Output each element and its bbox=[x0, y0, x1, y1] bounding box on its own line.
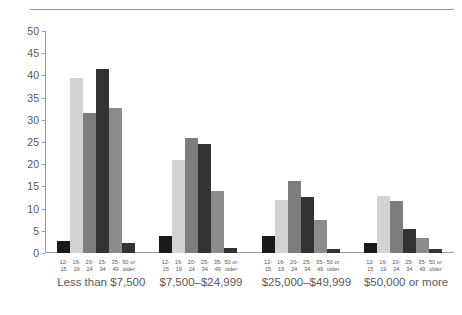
x-axis-tick-label: 35- 49 bbox=[211, 259, 224, 273]
plot-area: 05101520253035404550 12- 1516- 1920- 242… bbox=[45, 31, 454, 253]
x-axis-tick-label: 25- 34 bbox=[403, 259, 416, 273]
x-axis-tick-label: 20- 24 bbox=[83, 259, 96, 273]
x-axis-tick-label: 50 or older bbox=[429, 259, 442, 273]
x-axis-tick-label: 16- 19 bbox=[172, 259, 185, 273]
y-axis-tick-mark bbox=[42, 253, 45, 254]
bar bbox=[83, 113, 96, 253]
group-label: Less than $7,500 bbox=[57, 276, 135, 288]
bar bbox=[172, 160, 185, 253]
x-axis-tick-label: 12- 15 bbox=[364, 259, 377, 273]
x-axis-tick-label: 12- 15 bbox=[159, 259, 172, 273]
bar bbox=[301, 197, 314, 253]
y-axis-tick-label: 40 bbox=[27, 70, 39, 81]
y-axis-tick-mark bbox=[42, 186, 45, 187]
y-axis-tick-label: 20 bbox=[27, 159, 39, 170]
bars bbox=[262, 31, 340, 253]
bar bbox=[262, 236, 275, 253]
group-label: $7,500–$24,999 bbox=[159, 276, 237, 288]
group-label: $50,000 or more bbox=[364, 276, 442, 288]
x-axis-tick-label: 16- 19 bbox=[377, 259, 390, 273]
bar bbox=[377, 196, 390, 253]
bar bbox=[198, 144, 211, 253]
group-label: $25,000–$49,999 bbox=[262, 276, 340, 288]
y-axis-tick-label: 50 bbox=[27, 26, 39, 37]
y-axis-tick-label: 30 bbox=[27, 115, 39, 126]
bar bbox=[70, 78, 83, 253]
x-axis-tick-label: 50 or older bbox=[122, 259, 135, 273]
bar bbox=[390, 201, 403, 253]
y-axis-tick-mark bbox=[42, 164, 45, 165]
x-axis-tick-label: 25- 34 bbox=[198, 259, 211, 273]
x-axis-tick-label: 50 or older bbox=[224, 259, 237, 273]
bars bbox=[159, 31, 237, 253]
x-axis-tick-label: 35- 49 bbox=[416, 259, 429, 273]
bar-group: 12- 1516- 1920- 2425- 3435- 4950 or olde… bbox=[262, 31, 340, 253]
x-axis-tick-label: 20- 24 bbox=[185, 259, 198, 273]
x-axis-tick-label: 16- 19 bbox=[275, 259, 288, 273]
bar-group: 12- 1516- 1920- 2425- 3435- 4950 or olde… bbox=[159, 31, 237, 253]
y-axis-tick-mark bbox=[42, 98, 45, 99]
y-axis-tick-mark bbox=[42, 209, 45, 210]
x-axis-tick-labels: 12- 1516- 1920- 2425- 3435- 4950 or olde… bbox=[159, 253, 237, 273]
y-axis-tick-label: 35 bbox=[27, 92, 39, 103]
bar bbox=[275, 200, 288, 253]
y-axis-tick-mark bbox=[42, 120, 45, 121]
x-axis-tick-label: 50 or older bbox=[327, 259, 340, 273]
bars bbox=[57, 31, 135, 253]
x-axis-tick-labels: 12- 1516- 1920- 2425- 3435- 4950 or olde… bbox=[364, 253, 442, 273]
bar-group: 12- 1516- 1920- 2425- 3435- 4950 or olde… bbox=[57, 31, 135, 253]
x-axis-tick-label: 35- 49 bbox=[314, 259, 327, 273]
bar-group: 12- 1516- 1920- 2425- 3435- 4950 or olde… bbox=[364, 31, 442, 253]
bars bbox=[364, 31, 442, 253]
bar bbox=[109, 108, 122, 253]
y-axis-tick-mark bbox=[42, 231, 45, 232]
bar bbox=[122, 243, 135, 253]
y-axis-tick-label: 25 bbox=[27, 137, 39, 148]
x-axis-tick-label: 20- 24 bbox=[288, 259, 301, 273]
x-axis-tick-labels: 12- 1516- 1920- 2425- 3435- 4950 or olde… bbox=[57, 253, 135, 273]
bar bbox=[416, 238, 429, 253]
x-axis-tick-label: 12- 15 bbox=[262, 259, 275, 273]
x-axis-tick-label: 20- 24 bbox=[390, 259, 403, 273]
y-axis-tick-label: 0 bbox=[33, 248, 39, 259]
y-axis-tick-label: 15 bbox=[27, 181, 39, 192]
x-axis-tick-labels: 12- 1516- 1920- 2425- 3435- 4950 or olde… bbox=[262, 253, 340, 273]
x-axis-tick-label: 25- 34 bbox=[301, 259, 314, 273]
chart-figure: 05101520253035404550 12- 1516- 1920- 242… bbox=[0, 0, 462, 315]
x-axis-tick-label: 12- 15 bbox=[57, 259, 70, 273]
bar bbox=[364, 243, 377, 253]
bar bbox=[403, 229, 416, 253]
bar bbox=[314, 220, 327, 253]
bar bbox=[57, 241, 70, 253]
y-axis-tick-mark bbox=[42, 31, 45, 32]
x-axis-tick-label: 35- 49 bbox=[109, 259, 122, 273]
bar bbox=[159, 236, 172, 253]
bar bbox=[211, 191, 224, 253]
y-axis-tick-label: 10 bbox=[27, 203, 39, 214]
bar bbox=[185, 138, 198, 253]
bar bbox=[96, 69, 109, 253]
bar bbox=[288, 181, 301, 253]
x-axis-tick-label: 16- 19 bbox=[70, 259, 83, 273]
x-axis-tick-label: 25- 34 bbox=[96, 259, 109, 273]
y-axis-tick-mark bbox=[42, 75, 45, 76]
y-axis-tick-label: 5 bbox=[33, 226, 39, 237]
y-axis-tick-mark bbox=[42, 53, 45, 54]
y-axis-tick-mark bbox=[42, 142, 45, 143]
header-rule bbox=[30, 9, 454, 10]
y-axis-tick-label: 45 bbox=[27, 48, 39, 59]
